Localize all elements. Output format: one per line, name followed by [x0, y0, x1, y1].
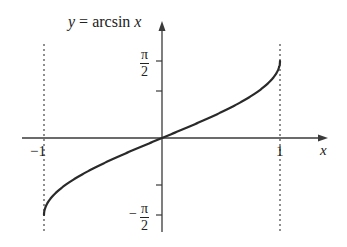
x-axis-label: x [320, 143, 327, 158]
pi-symbol: π [140, 48, 149, 64]
x-label-pos1: 1 [276, 144, 284, 159]
x-axis-arrow-icon [318, 135, 328, 142]
y-axis-arrow-icon [159, 21, 166, 31]
denominator-2-neg: 2 [140, 218, 149, 233]
curve-title: y = arcsin x [68, 14, 141, 30]
title-eq: = arcsin [75, 13, 134, 30]
x-label-neg1: −1 [30, 144, 46, 159]
arcsin-plot [0, 0, 347, 247]
y-label-neg-pi-over-2: π 2 [140, 202, 149, 233]
denominator-2: 2 [140, 64, 149, 79]
minus-sign: − [129, 207, 137, 221]
y-label-pi-over-2: π 2 [140, 48, 149, 79]
pi-symbol-neg: π [140, 202, 149, 218]
title-x: x [134, 13, 141, 30]
